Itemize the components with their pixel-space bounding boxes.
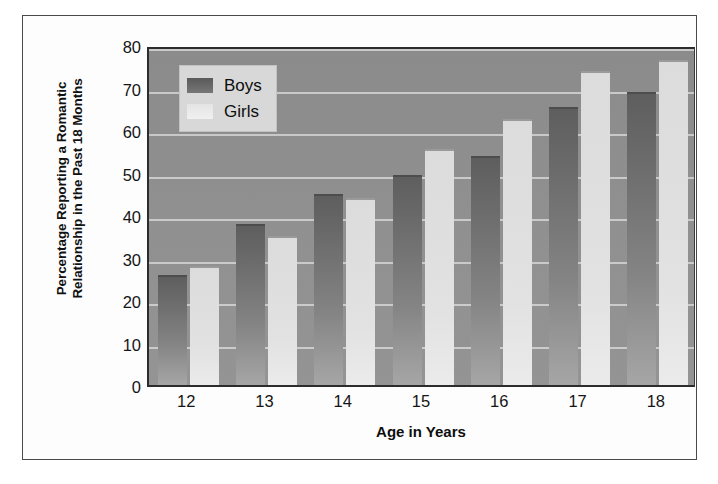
bar-boys-age-18 (627, 92, 656, 385)
y-axis-tick-label: 70 (101, 80, 141, 99)
y-axis-tick-label: 50 (101, 165, 141, 184)
bar-boys-age-15 (393, 175, 422, 385)
x-axis-tick-label: 12 (156, 392, 216, 411)
bar-group (393, 49, 454, 385)
x-axis-tick-label: 16 (469, 392, 529, 411)
bar-girls-age-14 (346, 198, 375, 385)
x-axis-tick-label: 17 (548, 392, 608, 411)
y-axis-title-line-2: Relationship in the Past 18 Months (70, 23, 86, 353)
bar-girls-age-17 (581, 71, 610, 386)
bar-girls-age-13 (268, 236, 297, 385)
bar-boys-age-14 (314, 194, 343, 385)
legend-item-boys: Boys (187, 72, 262, 98)
bar-boys-age-12 (158, 275, 187, 386)
figure-frame: Percentage Reporting a Romantic Relation… (22, 15, 697, 460)
legend-item-girls: Girls (187, 98, 262, 124)
legend-swatch-boys-icon (187, 78, 213, 93)
bar-group (549, 49, 610, 385)
figure-root: Percentage Reporting a Romantic Relation… (0, 0, 718, 484)
bar-girls-age-12 (190, 266, 219, 385)
x-axis-tick-labels: 12131415161718 (147, 392, 695, 416)
y-axis-title-line-1: Percentage Reporting a Romantic (54, 23, 70, 353)
y-axis-tick-labels: 01020304050607080 (101, 47, 141, 387)
y-axis-tick-label: 30 (101, 250, 141, 269)
bar-group (314, 49, 375, 385)
y-axis-title: Percentage Reporting a Romantic Relation… (54, 23, 87, 353)
x-axis-tick-label: 18 (626, 392, 686, 411)
bar-boys-age-16 (471, 156, 500, 386)
y-axis-tick-label: 20 (101, 293, 141, 312)
legend-label-girls: Girls (224, 103, 259, 120)
x-axis-tick-label: 13 (234, 392, 294, 411)
bar-girls-age-18 (659, 60, 688, 385)
bar-group (471, 49, 532, 385)
y-axis-tick-label: 80 (101, 38, 141, 57)
bar-girls-age-16 (503, 119, 532, 385)
x-axis-tick-label: 14 (313, 392, 373, 411)
bar-boys-age-13 (236, 224, 265, 386)
y-axis-tick-label: 40 (101, 208, 141, 227)
y-axis-tick-label: 60 (101, 123, 141, 142)
y-axis-tick-label: 0 (101, 378, 141, 397)
x-axis-title: Age in Years (147, 423, 695, 440)
x-axis-tick-label: 15 (391, 392, 451, 411)
bar-group (627, 49, 688, 385)
legend-label-boys: Boys (224, 77, 262, 94)
plot-area: Boys Girls (147, 47, 695, 387)
chart-legend: Boys Girls (179, 65, 277, 132)
bar-girls-age-15 (425, 149, 454, 385)
bar-boys-age-17 (549, 107, 578, 385)
legend-swatch-girls-icon (187, 104, 213, 119)
y-axis-tick-label: 10 (101, 335, 141, 354)
